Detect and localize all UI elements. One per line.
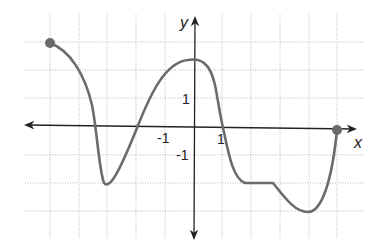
- y-axis-label: y: [179, 14, 189, 31]
- tick-x-pos1: 1: [217, 131, 225, 147]
- tick-y-neg1: -1: [176, 147, 189, 163]
- tick-x-neg1: -1: [157, 130, 170, 146]
- function-graph: y x -1 1 1 -1: [0, 0, 377, 250]
- y-axis: [194, 18, 195, 238]
- tick-y-pos1: 1: [182, 91, 190, 107]
- x-axis-label: x: [353, 134, 363, 151]
- end-endpoint: [332, 125, 342, 135]
- x-axis: [26, 125, 355, 129]
- start-endpoint: [45, 38, 55, 48]
